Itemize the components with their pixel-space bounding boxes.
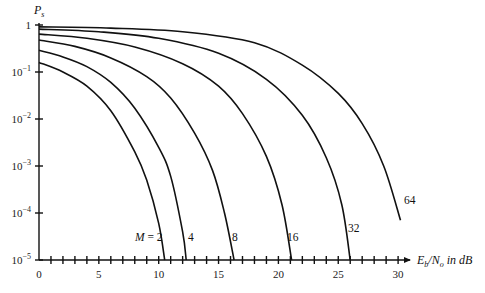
curve-label: 32 <box>348 222 360 234</box>
y-tick-label: 10−1 <box>11 64 31 78</box>
curve-16 <box>39 34 292 260</box>
x-tick-label: 0 <box>36 268 42 280</box>
y-tick-label: 10−3 <box>11 158 31 172</box>
axes: Ps110−110−210−310−410−5051015202530Eb/No… <box>11 3 473 280</box>
curve-label: 4 <box>188 231 194 243</box>
y-tick-label: 10−5 <box>11 252 31 266</box>
curves <box>39 27 401 260</box>
curve-label: 16 <box>287 231 299 243</box>
x-tick-label: 25 <box>333 268 345 280</box>
x-tick-label: 20 <box>273 268 285 280</box>
y-tick-label: 10−4 <box>11 205 31 219</box>
x-axis-title: Eb/No in dB <box>416 253 473 269</box>
x-tick-label: 30 <box>393 268 405 280</box>
x-tick-label: 15 <box>213 268 225 280</box>
curve-8 <box>39 40 234 260</box>
curve-label: 64 <box>404 194 416 206</box>
x-tick-label: 10 <box>153 268 165 280</box>
y-axis-title: Ps <box>33 3 44 19</box>
y-tick-label: 10−2 <box>11 111 31 125</box>
x-tick-label: 5 <box>96 268 102 280</box>
curve-label: 8 <box>232 231 238 243</box>
symbol-error-probability-chart: Ps110−110−210−310−410−5051015202530Eb/No… <box>0 0 485 293</box>
curve-label: M = 2 <box>134 231 163 243</box>
x-axis-arrow-icon <box>404 257 411 263</box>
curve-4 <box>39 50 186 260</box>
y-tick-label: 1 <box>26 19 32 31</box>
curve-32 <box>39 29 350 260</box>
